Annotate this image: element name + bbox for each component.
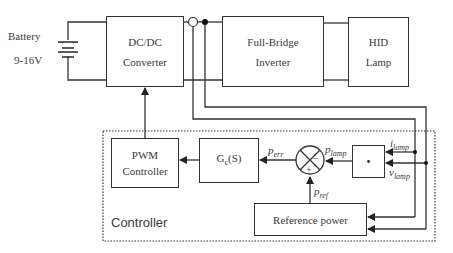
lamp-line1: HID xyxy=(369,32,389,52)
pwm-controller-block: PWM Controller xyxy=(111,138,179,188)
full-bridge-inverter-block: Full-Bridge Inverter xyxy=(222,16,324,87)
battery-voltage: 9-16V xyxy=(14,55,42,66)
hid-lamp-block: HID Lamp xyxy=(348,17,409,87)
multiplier-symbol: · xyxy=(365,152,371,172)
battery-icon xyxy=(58,42,78,57)
p-lamp-label: plamp xyxy=(325,144,347,158)
reference-power-block: Reference power xyxy=(254,203,367,236)
junction-dot-icon xyxy=(202,19,208,25)
lamp-line2: Lamp xyxy=(366,52,392,72)
v-lamp-label: vlamp xyxy=(389,167,410,181)
dcdc-line2: Converter xyxy=(123,52,167,72)
reference-power-label: Reference power xyxy=(273,210,348,230)
controller-title: Controller xyxy=(111,215,167,230)
p-ref-label: pref xyxy=(314,186,328,200)
pwm-line2: Controller xyxy=(122,163,167,179)
inverter-line1: Full-Bridge xyxy=(247,32,298,52)
gc-label: Gc(S) xyxy=(217,148,242,173)
junction-plus: + xyxy=(306,165,312,175)
multiplier-block: · xyxy=(352,145,385,178)
p-err-label: perr xyxy=(268,145,283,159)
gc-block: Gc(S) xyxy=(199,138,259,183)
battery-top-wire xyxy=(68,22,106,40)
dcdc-line1: DC/DC xyxy=(128,32,162,52)
junction-minus: − xyxy=(313,154,319,164)
i-lamp-label: ilamp xyxy=(390,138,409,152)
inverter-line2: Inverter xyxy=(256,52,291,72)
dcdc-converter-block: DC/DC Converter xyxy=(106,16,184,87)
pwm-line1: PWM xyxy=(132,147,158,163)
battery-label: Battery xyxy=(8,31,40,42)
open-node-icon xyxy=(189,18,198,27)
battery-bottom-wire xyxy=(68,56,106,80)
